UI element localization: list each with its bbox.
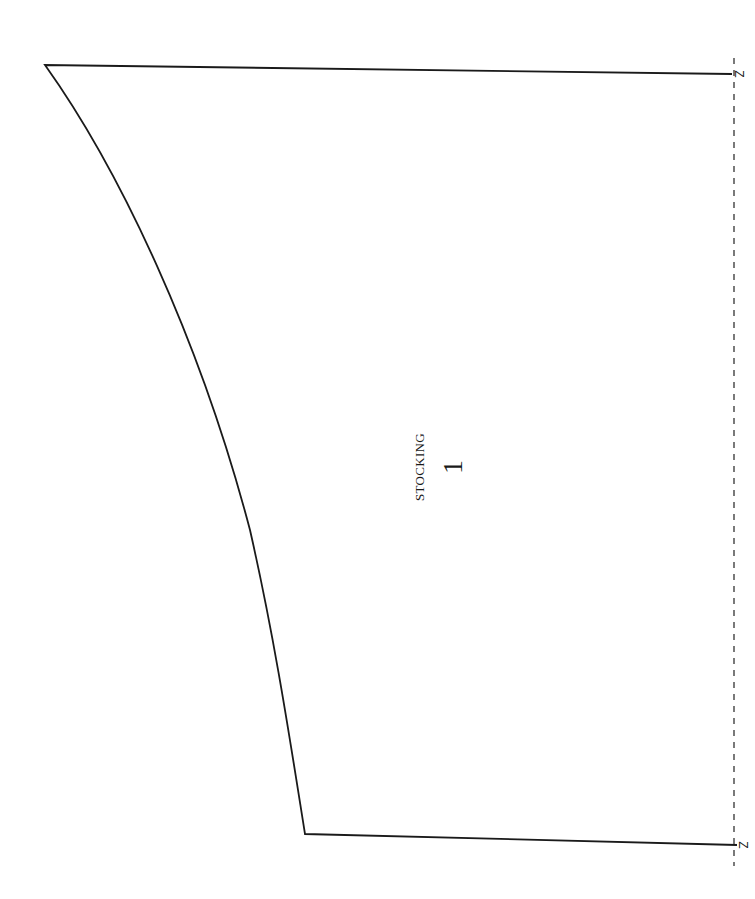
notch-mark-bottom: Z xyxy=(736,841,750,848)
piece-name-label: STOCKING xyxy=(412,433,428,501)
pattern-outline xyxy=(45,65,737,845)
piece-number-label: 1 xyxy=(437,460,469,474)
notch-mark-top: Z xyxy=(732,70,746,77)
pattern-piece-drawing xyxy=(0,0,755,899)
